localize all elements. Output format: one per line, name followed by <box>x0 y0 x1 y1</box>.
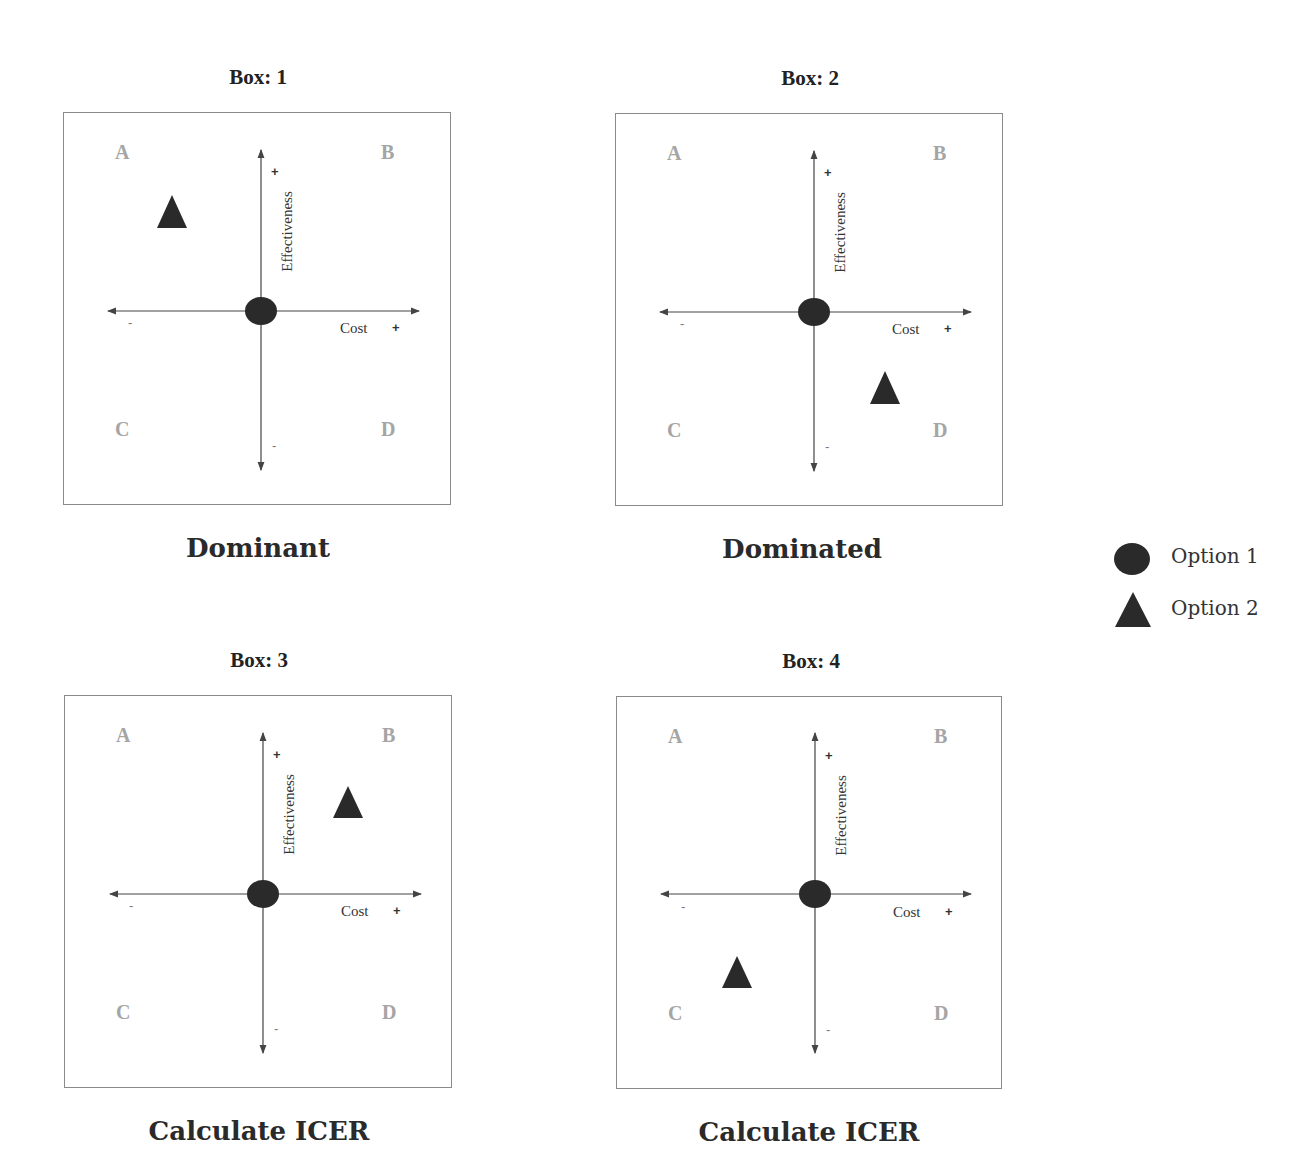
quadrant-label-b: B <box>382 724 395 747</box>
option-2-triangle-icon <box>157 195 187 228</box>
y-plus-sign: + <box>271 164 279 179</box>
axes <box>64 113 452 506</box>
legend-item-option-2: Option 2 <box>1112 590 1302 642</box>
quadrant-label-d: D <box>382 1001 396 1024</box>
quadrant-label-c: C <box>116 1001 130 1024</box>
y-plus-sign: + <box>824 165 832 180</box>
x-axis-label: Cost <box>340 320 368 337</box>
panel-title: Box: 1 <box>63 65 453 90</box>
quadrant-label-d: D <box>933 419 947 442</box>
y-axis-label: Effectiveness <box>833 761 850 871</box>
y-minus-sign: - <box>825 439 829 454</box>
quadrant-label-a: A <box>115 141 129 164</box>
x-plus-sign: + <box>945 904 953 919</box>
panel-title: Box: 4 <box>616 649 1006 674</box>
x-minus-sign: - <box>129 898 133 913</box>
y-minus-sign: - <box>826 1022 830 1037</box>
axes <box>65 696 453 1089</box>
axes <box>616 114 1004 507</box>
quadrant-label-d: D <box>934 1002 948 1025</box>
quadrant-label-c: C <box>668 1002 682 1025</box>
x-plus-sign: + <box>944 321 952 336</box>
option-1-circle-icon <box>245 297 277 325</box>
y-minus-sign: - <box>272 438 276 453</box>
y-plus-sign: + <box>273 747 281 762</box>
quadrant-label-b: B <box>933 142 946 165</box>
y-axis-label: Effectiveness <box>832 178 849 288</box>
option-1-circle-icon <box>799 880 831 908</box>
legend-label: Option 1 <box>1171 544 1259 568</box>
option-1-circle-icon <box>247 880 279 908</box>
quadrant-label-b: B <box>934 725 947 748</box>
y-axis-label: Effectiveness <box>279 177 296 287</box>
legend-item-option-1: Option 1 <box>1112 538 1302 590</box>
quadrant-label-b: B <box>381 141 394 164</box>
option-2-triangle-icon <box>333 786 363 818</box>
quadrant-label-a: A <box>668 725 682 748</box>
y-minus-sign: - <box>274 1021 278 1036</box>
panel-caption: Calculate ICER <box>64 1116 454 1146</box>
x-axis-label: Cost <box>341 903 369 920</box>
quadrant-label-a: A <box>116 724 130 747</box>
x-axis-label: Cost <box>892 321 920 338</box>
circle-icon <box>1112 538 1152 578</box>
y-axis-label: Effectiveness <box>281 760 298 870</box>
x-minus-sign: - <box>680 316 684 331</box>
triangle-icon <box>1112 590 1152 630</box>
panel-caption: Dominant <box>63 533 453 563</box>
x-plus-sign: + <box>393 903 401 918</box>
quadrant-label-c: C <box>667 419 681 442</box>
cost-effectiveness-plane: A B C D Effectiveness Cost + - + - <box>615 113 1003 506</box>
quadrant-label-a: A <box>667 142 681 165</box>
option-1-circle-icon <box>798 298 830 326</box>
option-2-triangle-icon <box>870 371 900 404</box>
quadrant-label-c: C <box>115 418 129 441</box>
panel-caption: Dominated <box>607 534 997 564</box>
legend-label: Option 2 <box>1171 596 1259 620</box>
x-minus-sign: - <box>128 315 132 330</box>
panel-title: Box: 2 <box>615 66 1005 91</box>
axes <box>617 697 1003 1090</box>
quadrant-label-d: D <box>381 418 395 441</box>
cost-effectiveness-plane: A B C D Effectiveness Cost + - + - <box>64 695 452 1088</box>
legend: Option 1 Option 2 <box>1112 538 1302 642</box>
cost-effectiveness-plane: A B C D Effectiveness Cost + - + - <box>63 112 451 505</box>
cost-effectiveness-plane: A B C D Effectiveness Cost + - + - <box>616 696 1002 1089</box>
x-minus-sign: - <box>681 899 685 914</box>
option-2-triangle-icon <box>722 956 752 988</box>
y-plus-sign: + <box>825 748 833 763</box>
panel-title: Box: 3 <box>64 648 454 673</box>
x-plus-sign: + <box>392 320 400 335</box>
panel-caption: Calculate ICER <box>614 1117 1004 1147</box>
x-axis-label: Cost <box>893 904 921 921</box>
